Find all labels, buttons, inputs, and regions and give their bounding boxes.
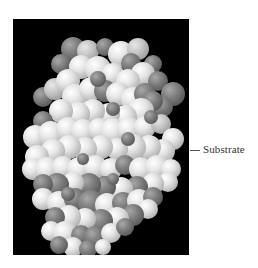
atom-sphere bbox=[106, 102, 120, 116]
atom-sphere bbox=[116, 218, 134, 236]
atom-sphere bbox=[77, 153, 89, 165]
substrate-label: Substrate bbox=[203, 143, 245, 155]
atom-sphere bbox=[107, 173, 119, 185]
atom-sphere bbox=[121, 132, 135, 146]
atom-sphere bbox=[50, 236, 68, 254]
substrate-leader-line bbox=[190, 150, 200, 151]
atom-sphere bbox=[61, 187, 75, 201]
molecule-panel bbox=[13, 19, 189, 255]
atom-sphere bbox=[144, 110, 158, 124]
atom-sphere bbox=[95, 239, 111, 255]
atom-sphere bbox=[90, 71, 106, 87]
